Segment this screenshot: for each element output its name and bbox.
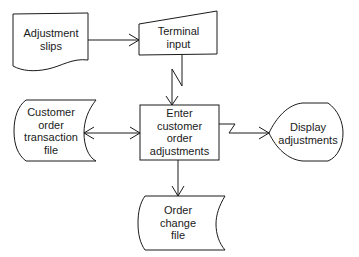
process-label: Enter customer order adjustments — [140, 107, 219, 157]
display-label: Display adjustments — [272, 121, 344, 146]
arrow-process-to-change-file — [172, 160, 184, 196]
adjustment-slips-label: Adjustment slips — [14, 27, 88, 52]
comm-link-terminal-to-process — [166, 55, 182, 105]
comm-link-process-to-display — [219, 124, 269, 139]
order-change-file-label: Order change file — [140, 204, 216, 242]
customer-order-file-label: Customer order transaction file — [16, 106, 86, 156]
terminal-input-label: Terminal input — [140, 25, 217, 50]
arrow-file-to-process — [84, 127, 140, 139]
arrow-slips-to-terminal — [88, 34, 139, 46]
